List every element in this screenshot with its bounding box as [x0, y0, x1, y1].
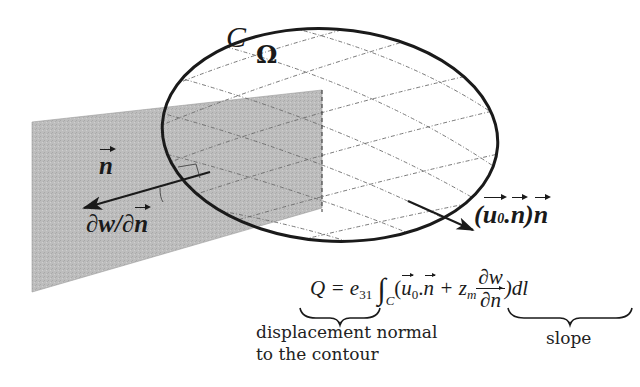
eq-u-vector: u — [401, 276, 412, 301]
u-symbol: u — [483, 200, 497, 229]
label-domain-omega: Ω — [256, 40, 277, 69]
paren-open: ( — [474, 200, 483, 229]
label-contour-c: C — [226, 20, 246, 54]
eq-close: )dl — [505, 276, 528, 300]
label-slope-derivative: ∂w/∂n — [86, 210, 148, 238]
eq-frac-den-d: ∂ — [480, 288, 490, 312]
eq-fraction: ∂w∂n — [476, 266, 504, 311]
eq-frac-den-n: n — [490, 289, 501, 311]
eq-integral-sub: C — [386, 293, 395, 308]
normal-n: n — [99, 152, 113, 180]
eq-open-paren: ( — [394, 276, 401, 300]
eq-integral: ∫ — [377, 272, 385, 305]
annotation-displacement-line1: displacement normal — [256, 322, 437, 342]
charge-equation: Q = e31 ∫C(u0.n + zm∂w∂n)dl — [310, 268, 528, 313]
label-normal-n: n — [99, 152, 113, 180]
n-vector-2: n — [534, 200, 548, 230]
eq-lhs-sub: 31 — [359, 287, 372, 302]
paren-close: ) — [525, 200, 534, 229]
annotation-slope: slope — [546, 328, 591, 348]
eq-z-sub: m — [467, 287, 476, 302]
n-vector: n — [511, 200, 525, 230]
annotation-displacement-line2: to the contour — [256, 344, 379, 364]
label-displacement-vector: (u0.n)n — [474, 200, 548, 230]
eq-frac-den: ∂n — [476, 289, 504, 311]
eq-u: u — [401, 276, 412, 300]
slope-derivative-n: n — [134, 210, 148, 238]
slope-derivative-text: ∂w/∂ — [86, 210, 134, 237]
u-subscript: 0 — [497, 211, 504, 226]
eq-n-vector: n — [424, 276, 435, 301]
eq-plus-z: + z — [439, 276, 467, 300]
eq-lhs: Q = e — [310, 276, 359, 300]
u-vector: u0 — [483, 200, 504, 230]
